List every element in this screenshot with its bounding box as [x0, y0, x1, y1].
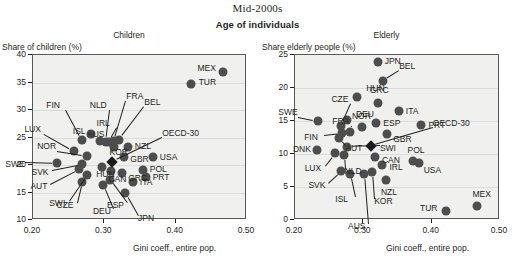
point-label-nld: NLD	[345, 167, 362, 176]
data-point-swe[interactable]	[314, 117, 323, 126]
x-tick-label: 0.20	[286, 225, 303, 235]
data-point-esp[interactable]	[372, 118, 381, 127]
point-label-cze: CZE	[57, 201, 74, 210]
data-point-kor[interactable]	[368, 167, 377, 176]
point-label-lux: LUX	[305, 164, 322, 173]
data-point-swe[interactable]	[53, 158, 62, 167]
point-label-bel: BEL	[144, 98, 160, 107]
chart-panel-children: Children Share of children (%) MEXTURUSA…	[0, 30, 258, 260]
point-label-jpn: JPN	[138, 214, 154, 223]
point-label-aut: AUT	[30, 182, 47, 191]
y-tick-mark	[28, 137, 32, 138]
x-tick-mark	[431, 219, 432, 223]
y-axis-title-children: Share of children (%)	[2, 42, 82, 52]
y-tick-label: 0	[283, 214, 288, 224]
x-tick-label: 0.20	[24, 225, 41, 235]
y-tick-label: 35	[17, 77, 26, 87]
x-tick-label: 0.40	[422, 225, 439, 235]
point-label-fra: FRA	[332, 117, 349, 126]
x-tick-label: 0.40	[166, 225, 183, 235]
y-tick-mark	[290, 87, 294, 88]
leader-line-isl	[351, 179, 356, 197]
data-point-can[interactable]	[370, 152, 379, 161]
x-tick-label: 0.50	[238, 225, 255, 235]
plot-area-children: MEXTURUSAPOLPRTITANZLGBRKORCANGRCHUNAUSI…	[32, 54, 246, 219]
point-label-pol: POL	[408, 146, 425, 155]
data-point-mex[interactable]	[219, 67, 228, 76]
data-point-mex[interactable]	[473, 202, 482, 211]
y-tick-label: 20	[17, 159, 26, 169]
data-point-tur[interactable]	[186, 80, 195, 89]
y-tick-mark	[28, 54, 32, 55]
point-label-isl: ISL	[335, 195, 348, 204]
x-tick-mark	[362, 219, 363, 223]
y-tick-mark	[290, 186, 294, 187]
y-tick-mark	[290, 219, 294, 220]
y-tick-mark	[290, 120, 294, 121]
point-label-esp: ESP	[107, 201, 124, 210]
data-point-usa[interactable]	[148, 153, 157, 162]
point-label-svk: SVK	[32, 168, 49, 177]
data-point-dnk[interactable]	[312, 146, 321, 155]
x-tick-label: 0.30	[95, 225, 112, 235]
plot-area-elderly: JPNBELHUNGRCITANORSWECZEESPDEUPRTFRAFINA…	[294, 54, 499, 219]
y-tick-mark	[28, 164, 32, 165]
data-point-nor[interactable]	[83, 151, 92, 160]
point-label-dnk: DNK	[293, 145, 311, 154]
data-point-fra[interactable]	[346, 127, 355, 136]
point-label-svk: SVK	[308, 181, 325, 190]
x-tick-mark	[175, 219, 176, 223]
point-label-hun: HUN	[96, 170, 114, 179]
y-tick-label: 15	[279, 115, 288, 125]
data-point-tur[interactable]	[442, 206, 451, 215]
point-label-prt: PRT	[153, 173, 170, 182]
y-tick-label: 15	[17, 187, 26, 197]
point-label-deu: DEU	[356, 110, 374, 119]
y-tick-label: 25	[17, 132, 26, 142]
data-point-prt[interactable]	[417, 120, 426, 129]
point-label-cze: CZE	[331, 95, 348, 104]
leader-line-svk	[328, 175, 338, 184]
data-point-hun[interactable]	[353, 92, 362, 101]
point-label-oecd-30: OECD-30	[433, 119, 470, 128]
y-tick-label: 10	[17, 214, 26, 224]
data-point-fin[interactable]	[78, 135, 87, 144]
data-point-jpn[interactable]	[373, 57, 382, 66]
y-tick-mark	[28, 82, 32, 83]
leader-line-bel	[122, 107, 145, 137]
y-tick-mark	[28, 219, 32, 220]
point-label-kor: KOR	[374, 197, 392, 206]
y-tick-label: 25	[279, 49, 288, 59]
point-label-nor: NOR	[37, 142, 56, 151]
y-tick-label: 5	[283, 181, 288, 191]
y-tick-label: 10	[279, 148, 288, 158]
point-label-gbr: GBR	[130, 155, 148, 164]
y-tick-mark	[28, 109, 32, 110]
panel-title-elderly: Elderly	[258, 30, 515, 40]
point-label-swi: SWI	[380, 144, 396, 153]
leader-line-lux	[325, 157, 333, 167]
point-label-grc: GRC	[370, 86, 389, 95]
section-title: Age of individuals	[0, 19, 515, 30]
y-tick-label: 20	[279, 82, 288, 92]
y-axis-title-elderly: Share elderly people (%)	[262, 42, 356, 52]
data-point-nzl[interactable]	[381, 176, 390, 185]
point-label-tur: TUR	[199, 78, 216, 87]
point-label-bel: BEL	[399, 62, 415, 71]
x-tick-mark	[103, 219, 104, 223]
data-point-deu[interactable]	[357, 122, 366, 131]
point-label-lux: LUX	[24, 125, 41, 134]
point-label-usa: USA	[424, 166, 441, 175]
y-tick-label: 30	[17, 104, 26, 114]
data-point-usa[interactable]	[414, 158, 423, 167]
leader-line-aus	[364, 179, 369, 224]
leader-line-aut	[50, 171, 75, 185]
data-point-grc[interactable]	[373, 98, 382, 107]
point-label-fin: FIN	[304, 133, 318, 142]
point-label-mex: MEX	[472, 190, 490, 199]
data-point-gbr[interactable]	[383, 130, 392, 139]
x-axis-title-elderly: Gini coeff., entire pop.	[386, 243, 469, 253]
x-tick-label: 0.30	[354, 225, 371, 235]
data-point-ita[interactable]	[394, 107, 403, 116]
point-label-irl: IRL	[389, 163, 402, 172]
